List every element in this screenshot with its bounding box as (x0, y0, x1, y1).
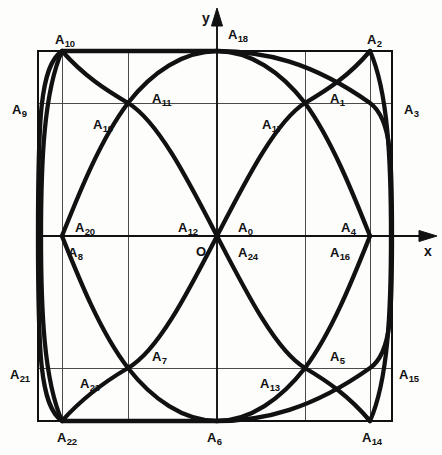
point-label-subscript: 7 (162, 355, 167, 366)
point-label-a14: A14 (362, 431, 382, 444)
point-label-subscript: 11 (162, 97, 172, 108)
point-label-base: A (341, 220, 351, 235)
point-label-subscript: 15 (409, 373, 419, 384)
point-label-base: A (330, 349, 340, 364)
point-label-a8: A8 (68, 246, 83, 259)
point-label-base: A (12, 102, 22, 117)
point-label-base: A (262, 117, 272, 132)
point-label-base: A (93, 117, 103, 132)
point-label-base: A (228, 27, 238, 42)
point-label-a9: A9 (12, 103, 27, 116)
point-label-a21: A21 (10, 368, 30, 381)
point-label-a17: A17 (262, 118, 282, 131)
point-label-base: A (55, 32, 65, 47)
point-label-subscript: 20 (85, 226, 95, 237)
point-label-a19: A19 (93, 118, 113, 131)
point-label-base: A (238, 220, 248, 235)
point-label-base: A (330, 91, 340, 106)
x-axis-arrowhead (419, 231, 437, 242)
point-label-a23: A23 (80, 377, 100, 390)
point-label-a13: A13 (260, 377, 280, 390)
point-label-a22: A22 (57, 431, 77, 444)
point-label-base: A (80, 376, 90, 391)
curve-lobe-lower-right (217, 236, 370, 421)
curve-lobe-upper-right (217, 51, 370, 236)
point-label-base: A (68, 245, 78, 260)
point-label-base: A (57, 430, 67, 445)
curve-lobe-upper-left (62, 51, 217, 236)
point-label-subscript: 0 (248, 226, 253, 237)
point-label-base: A (367, 32, 377, 47)
point-label-subscript: 10 (65, 38, 75, 49)
point-label-subscript: 14 (372, 436, 382, 447)
point-label-a24: A24 (238, 246, 258, 259)
point-label-base: A (330, 245, 340, 260)
lissajous-figure-diagram: A0A1A2A3A4A5A6A7A8A9A10A11A12A13A14A15A1… (0, 0, 442, 455)
diagram-canvas (0, 0, 442, 455)
y-axis-label: y (202, 11, 210, 25)
point-label-base: A (152, 349, 162, 364)
point-label-a20: A20 (75, 221, 95, 234)
point-label-a7: A7 (152, 350, 167, 363)
y-axis-arrowhead (212, 8, 223, 26)
point-label-base: A (178, 220, 188, 235)
point-label-a18: A18 (228, 28, 248, 41)
point-label-base: A (238, 245, 248, 260)
point-label-subscript: 22 (67, 436, 77, 447)
point-label-subscript: 1 (340, 97, 345, 108)
point-label-subscript: 4 (351, 226, 356, 237)
point-label-subscript: 24 (248, 251, 258, 262)
point-label-subscript: 23 (90, 382, 100, 393)
point-label-subscript: 16 (340, 251, 350, 262)
point-label-a12: A12 (178, 221, 198, 234)
point-label-a10: A10 (55, 33, 75, 46)
point-label-a2: A2 (367, 33, 382, 46)
point-label-a15: A15 (399, 368, 419, 381)
point-label-subscript: 3 (414, 108, 419, 119)
point-label-subscript: 2 (377, 38, 382, 49)
point-label-base: A (404, 102, 414, 117)
point-label-a1: A1 (330, 92, 345, 105)
point-label-subscript: 17 (272, 123, 282, 134)
point-label-subscript: 9 (22, 108, 27, 119)
point-label-base: A (10, 367, 20, 382)
point-label-base: A (260, 376, 270, 391)
point-label-base: A (207, 430, 217, 445)
point-label-subscript: 8 (78, 251, 83, 262)
point-label-a3: A3 (404, 103, 419, 116)
point-label-base: A (399, 367, 409, 382)
point-label-subscript: 18 (238, 33, 248, 44)
point-label-a6: A6 (207, 431, 222, 444)
point-label-subscript: 12 (188, 226, 198, 237)
point-label-subscript: 5 (340, 355, 345, 366)
point-label-subscript: 21 (20, 373, 30, 384)
point-label-a16: A16 (330, 246, 350, 259)
point-label-base: A (75, 220, 85, 235)
point-label-a5: A5 (330, 350, 345, 363)
point-label-base: A (152, 91, 162, 106)
point-label-a4: A4 (341, 221, 356, 234)
point-label-subscript: 6 (217, 436, 222, 447)
point-label-subscript: 19 (103, 123, 113, 134)
origin-label: O (196, 245, 206, 258)
point-label-base: A (362, 430, 372, 445)
point-label-subscript: 13 (270, 382, 280, 393)
curve-lobe-lower-left (62, 236, 217, 421)
point-label-a11: A11 (152, 92, 171, 105)
x-axis-label: x (424, 244, 432, 258)
point-label-a0: A0 (238, 221, 253, 234)
